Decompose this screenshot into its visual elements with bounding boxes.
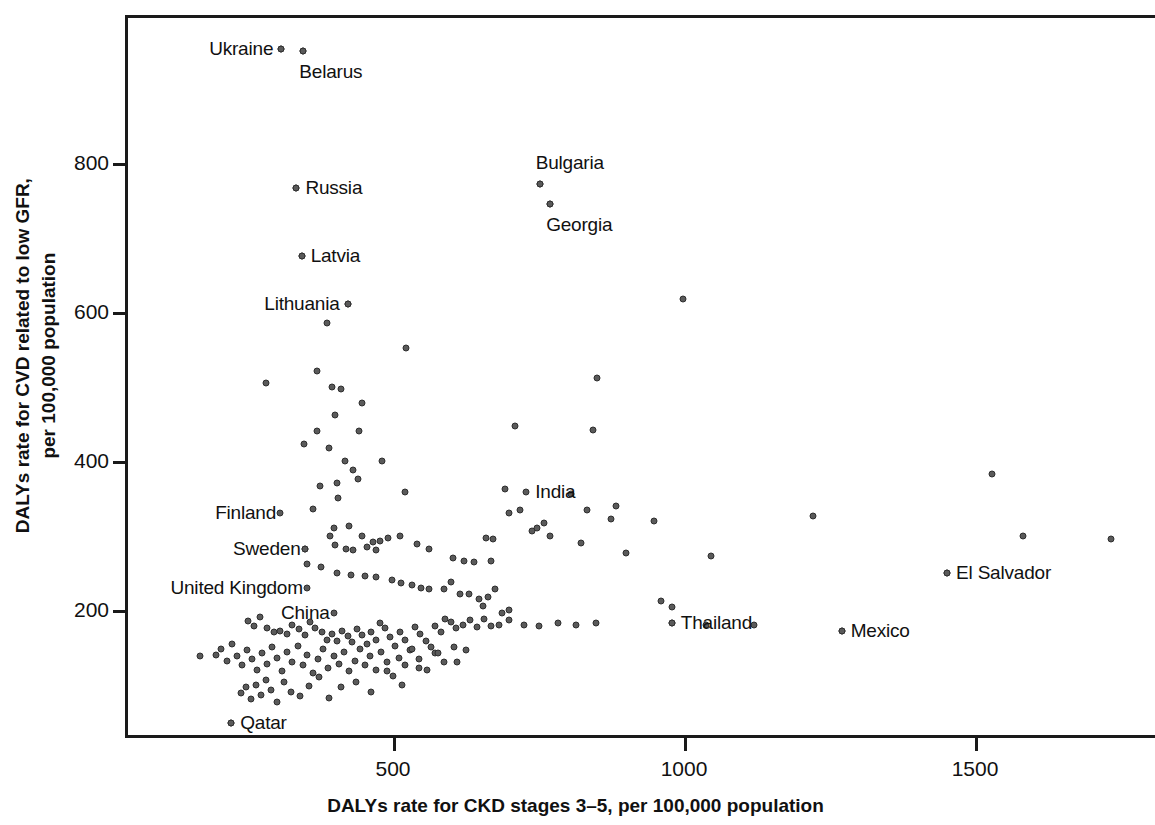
data-point [387,633,394,640]
data-point [234,653,241,660]
data-point [333,480,340,487]
data-point [540,519,547,526]
data-point [622,549,629,556]
y-axis-tick [113,610,127,613]
data-point [413,541,420,548]
data-point [487,557,494,564]
data-point [294,642,301,649]
point-label-india: India [535,481,575,503]
data-point [506,617,513,624]
data-point [669,604,676,611]
data-point [356,645,363,652]
data-point [238,662,245,669]
data-point [378,649,385,656]
data-point [520,621,527,628]
data-point [441,586,448,593]
data-point [650,517,657,524]
data-point [476,595,483,602]
data-point [396,629,403,636]
data-point [465,590,472,597]
data-point [384,659,391,666]
data-point [325,665,332,672]
data-point [440,659,447,666]
data-point [474,624,481,631]
data-point [417,630,424,637]
data-point [423,666,430,673]
data-point [449,554,456,561]
data-point [315,674,322,681]
data-point [416,656,423,663]
data-point [351,657,358,664]
data-point [378,458,385,465]
data-point [372,547,379,554]
labeled-data-point-mexico [838,627,845,634]
data-point [426,586,433,593]
data-point [462,647,469,654]
data-point [312,624,319,631]
data-point [708,552,715,559]
labeled-data-point-sweden [301,545,308,552]
data-point [484,593,491,600]
data-point [273,699,280,706]
data-point [512,422,519,429]
data-point [359,632,366,639]
data-point [304,560,311,567]
labeled-data-point-thailand [668,619,675,626]
data-point [364,640,371,647]
data-point [288,688,295,695]
data-point [328,630,335,637]
data-point [257,614,264,621]
labeled-data-point-bulgaria [536,180,543,187]
data-point [263,624,270,631]
data-point [680,296,687,303]
data-point [358,532,365,539]
data-point [244,618,251,625]
labeled-data-point-qatar [228,720,235,727]
point-label-mexico: Mexico [851,620,910,642]
data-point [613,502,620,509]
data-point [362,573,369,580]
data-point [302,631,309,638]
data-point [334,638,341,645]
data-point [350,547,357,554]
data-point [264,660,271,667]
data-point [481,615,488,622]
data-point [328,383,335,390]
point-label-el-salvador: El Salvador [956,562,1051,584]
data-point [300,440,307,447]
data-point [409,582,416,589]
data-point [299,662,306,669]
x-axis-tick [975,738,978,751]
data-point [223,657,230,664]
y-axis-title-line1: DALYs rate for CVD related to low GFR, [10,36,36,676]
labeled-data-point-india [523,489,530,496]
data-point [314,656,321,663]
data-point [592,620,599,627]
data-point [448,579,455,586]
data-point [276,627,283,634]
data-point [389,577,396,584]
data-point [516,507,523,514]
data-point [323,636,330,643]
data-point [259,650,266,657]
data-point [454,659,461,666]
data-point [331,411,338,418]
data-point [334,569,341,576]
data-point [251,623,258,630]
data-point [488,623,495,630]
data-point [320,645,327,652]
data-point [377,538,384,545]
data-point [809,513,816,520]
data-point [280,678,287,685]
data-point [242,684,249,691]
point-label-lithuania: Lithuania [264,293,339,315]
data-point [403,344,410,351]
data-point [412,624,419,631]
data-point [372,574,379,581]
data-point [398,580,405,587]
data-point [253,666,260,673]
x-axis-title: DALYs rate for CKD stages 3–5, per 100,0… [0,795,1151,817]
data-point [506,510,513,517]
data-point [501,486,508,493]
data-point [402,636,409,643]
